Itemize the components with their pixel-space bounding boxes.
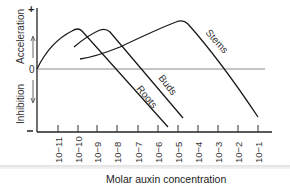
x-tick-label: 10−11 [53, 137, 64, 163]
y-label-inhibition: Inhibition [15, 84, 26, 124]
x-ticks [58, 125, 258, 132]
acceleration-arrow-icon [31, 36, 35, 58]
x-tick-label: 10−8 [112, 142, 123, 163]
x-tick-labels: 10−11 10−10 10−9 10−8 10−7 10−6 10−5 10−… [53, 136, 264, 163]
x-tick-label: 10−10 [73, 136, 84, 163]
x-tick-label: 10−6 [153, 142, 164, 163]
y-label-acceleration: Acceleration [15, 9, 26, 64]
x-tick-label: 10−3 [213, 142, 224, 163]
x-tick-label: 10−9 [92, 142, 103, 163]
x-tick-label: 10−5 [173, 142, 184, 163]
y-plus-label: + [28, 3, 34, 15]
x-tick-label: 10−1 [253, 142, 264, 163]
y-zero-label: 0 [29, 64, 35, 75]
x-tick-label: 10−7 [133, 142, 144, 163]
x-tick-label: 10−2 [233, 142, 244, 163]
x-tick-label: 10−4 [193, 142, 204, 163]
page-separator [0, 165, 290, 169]
stems-label: Stems [204, 27, 231, 55]
auxin-chart: + 0 Acceleration Inhibition Roots Buds S… [0, 0, 290, 188]
buds-label: Buds [156, 72, 179, 97]
x-axis-title: Molar auxin concentration [106, 173, 226, 185]
inhibition-arrow-icon [31, 80, 35, 103]
roots-label: Roots [134, 83, 159, 110]
